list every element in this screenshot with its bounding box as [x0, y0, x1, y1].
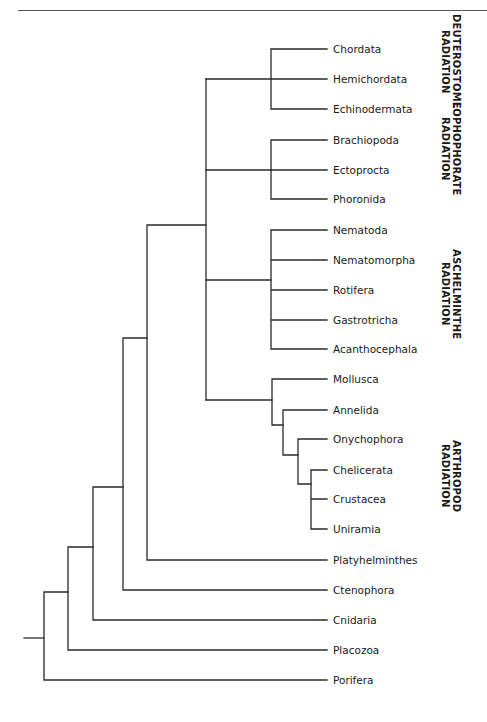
group-label-line2: RADIATION [440, 117, 451, 181]
group-label-line1: LOPHOPHORATE [451, 102, 462, 196]
group-label-arthropod-radiation: ARTHROPOD RADIATION [440, 440, 462, 512]
taxon-label-mollusca: Mollusca [333, 372, 379, 386]
taxon-label-crustacea: Crustacea [333, 492, 386, 506]
taxon-label-chordata: Chordata [333, 42, 381, 56]
taxon-label-nematomorpha: Nematomorpha [333, 253, 415, 267]
taxon-label-hemichordata: Hemichordata [333, 72, 407, 86]
group-label-line1: DEUTEROSTOME [451, 14, 462, 109]
group-label-deuterostome-radiation: DEUTEROSTOME RADIATION [440, 14, 462, 109]
taxon-label-annelida: Annelida [333, 403, 379, 417]
taxon-label-echinodermata: Echinodermata [333, 102, 413, 116]
taxon-label-cnidaria: Cnidaria [333, 613, 377, 627]
taxon-label-placozoa: Placozoa [333, 643, 379, 657]
taxon-label-chelicerata: Chelicerata [333, 463, 393, 477]
taxon-label-uniramia: Uniramia [333, 522, 381, 536]
group-label-line2: RADIATION [440, 262, 451, 326]
group-label-aschelminthe-radiation: ASCHELMINTHE RADIATION [440, 249, 462, 339]
taxon-label-gastrotricha: Gastrotricha [333, 313, 398, 327]
group-label-line2: RADIATION [440, 444, 451, 508]
taxon-label-platyhelminthes: Platyhelminthes [333, 553, 418, 567]
group-label-line1: ARTHROPOD [451, 440, 462, 512]
taxon-label-onychophora: Onychophora [333, 432, 403, 446]
taxon-label-brachiopoda: Brachiopoda [333, 133, 399, 147]
taxon-label-phoronida: Phoronida [333, 192, 386, 206]
group-label-lophophorate-radiation: LOPHOPHORATE RADIATION [440, 102, 462, 196]
taxon-label-ectoprocta: Ectoprocta [333, 163, 389, 177]
group-label-line1: ASCHELMINTHE [451, 249, 462, 339]
taxon-label-acanthocephala: Acanthocephala [333, 342, 417, 356]
taxon-label-ctenophora: Ctenophora [333, 583, 394, 597]
group-label-line2: RADIATION [440, 30, 451, 94]
cladogram-tree [0, 0, 487, 722]
taxon-label-rotifera: Rotifera [333, 283, 374, 297]
taxon-label-porifera: Porifera [333, 673, 374, 687]
taxon-label-nematoda: Nematoda [333, 223, 388, 237]
